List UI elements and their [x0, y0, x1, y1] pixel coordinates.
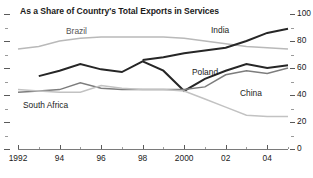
- series-label-china: China: [240, 89, 262, 98]
- x-tick-label: 02: [213, 154, 239, 163]
- x-tick-label: 2000: [171, 154, 197, 163]
- y-tick-label: 40: [297, 90, 306, 99]
- plot-svg: [0, 0, 313, 178]
- series-label-india: India: [211, 26, 229, 35]
- series-label-south-africa: South Africa: [23, 101, 68, 110]
- y-tick-label: 0: [297, 144, 302, 153]
- chart-container: As a Share of Country's Total Exports in…: [0, 0, 313, 178]
- y-tick-label: 20: [297, 117, 306, 126]
- series-label-poland: Poland: [192, 68, 218, 77]
- x-tick-label: 96: [88, 154, 114, 163]
- x-tick-label: 94: [47, 154, 73, 163]
- series-label-brazil: Brazil: [66, 27, 87, 36]
- y-tick-label: 100: [297, 9, 311, 18]
- y-tick-label: 80: [297, 36, 306, 45]
- plot-area: [0, 0, 313, 178]
- x-tick-label: 98: [130, 154, 156, 163]
- x-tick-label: 04: [254, 154, 280, 163]
- series-line-poland: [39, 61, 288, 91]
- x-tick-label: 1992: [5, 154, 31, 163]
- series-line-brazil: [18, 37, 288, 49]
- y-tick-label: 60: [297, 63, 306, 72]
